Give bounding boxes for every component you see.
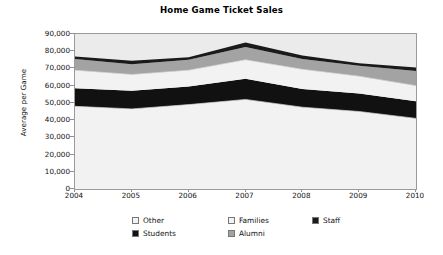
legend-label-staff: Staff [323, 216, 340, 225]
legend-label-other: Other [143, 216, 164, 225]
legend-label-families: Families [239, 216, 269, 225]
legend-swatch-students [132, 230, 139, 237]
legend-item-other[interactable]: Other [132, 216, 164, 225]
x-tick-label: 2006 [179, 191, 197, 200]
legend-swatch-alumni [228, 230, 235, 237]
legend-item-students[interactable]: Students [132, 229, 176, 238]
legend-item-staff[interactable]: Staff [312, 216, 340, 225]
legend-swatch-staff [312, 217, 319, 224]
legend-item-families[interactable]: Families [228, 216, 269, 225]
x-tick-label: 2007 [235, 191, 253, 200]
area-band-other [75, 99, 416, 189]
legend-item-alumni[interactable]: Alumni [228, 229, 265, 238]
x-tick-label: 2005 [122, 191, 140, 200]
x-tick-label: 2010 [406, 191, 424, 200]
legend-label-students: Students [143, 229, 176, 238]
plot-area [74, 33, 417, 190]
chart-legend: Other Families Staff Students Alumni [0, 216, 443, 250]
chart-container: Home Game Ticket Sales Average per Game … [0, 0, 443, 255]
x-tick-label: 2004 [65, 191, 83, 200]
stacked-area-plot [75, 34, 416, 189]
legend-label-alumni: Alumni [239, 229, 265, 238]
legend-swatch-families [228, 217, 235, 224]
x-tick-label: 2009 [349, 191, 367, 200]
legend-swatch-other [132, 217, 139, 224]
x-tick-label: 2008 [292, 191, 310, 200]
